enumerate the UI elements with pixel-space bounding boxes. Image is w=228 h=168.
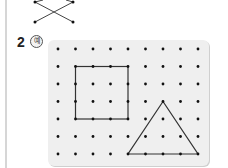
grid-dot — [109, 48, 112, 51]
grid-dot — [109, 65, 112, 68]
grid-dot — [109, 135, 112, 138]
grid-dot — [109, 153, 112, 156]
grid-dot — [179, 65, 182, 68]
grid-dot — [74, 153, 77, 156]
grid-dot — [144, 83, 147, 86]
grid-dot — [197, 83, 200, 86]
grid-dot — [197, 135, 200, 138]
grid-dot — [197, 48, 200, 51]
grid-dot — [92, 65, 95, 68]
grid-dot — [127, 135, 130, 138]
grid-dot — [197, 118, 200, 121]
grid-dot — [197, 153, 200, 156]
grid-dot — [162, 153, 165, 156]
grid-dot — [179, 48, 182, 51]
grid-dot — [92, 100, 95, 103]
grid-dot — [179, 118, 182, 121]
grid-dot — [109, 100, 112, 103]
grid-dot — [57, 65, 60, 68]
grid-dot — [162, 100, 165, 103]
grid-dot — [127, 48, 130, 51]
grid-dot — [92, 48, 95, 51]
grid-dot — [197, 65, 200, 68]
grid-dot — [92, 135, 95, 138]
grid-dot — [57, 153, 60, 156]
grid-dot — [57, 83, 60, 86]
grid-dot — [109, 83, 112, 86]
grid-dot — [144, 153, 147, 156]
grid-dot — [92, 118, 95, 121]
grid-dot — [74, 118, 77, 121]
grid-dot — [74, 100, 77, 103]
grid-dot — [162, 118, 165, 121]
grid-dot — [144, 135, 147, 138]
grid-dot — [179, 135, 182, 138]
grid-dot — [144, 48, 147, 51]
grid-dot — [179, 100, 182, 103]
grid-dot — [57, 100, 60, 103]
grid-dot — [92, 83, 95, 86]
grid-dot — [127, 100, 130, 103]
geoboard-figure — [0, 0, 228, 168]
grid-dot — [74, 83, 77, 86]
grid-dot — [127, 65, 130, 68]
square-shape — [76, 67, 129, 120]
grid-dot — [162, 65, 165, 68]
grid-dot — [57, 118, 60, 121]
triangle-shape — [128, 102, 198, 155]
grid-dot — [57, 48, 60, 51]
grid-dot — [74, 65, 77, 68]
grid-dot — [144, 65, 147, 68]
grid-dot — [162, 83, 165, 86]
grid-dot — [179, 153, 182, 156]
grid-dot — [162, 48, 165, 51]
grid-dot — [197, 100, 200, 103]
grid-dot — [74, 135, 77, 138]
grid-dot — [144, 100, 147, 103]
grid-dot — [162, 135, 165, 138]
grid-dot — [57, 135, 60, 138]
grid-dot — [74, 48, 77, 51]
grid-dot — [179, 83, 182, 86]
grid-dot — [92, 153, 95, 156]
grid-dot — [127, 118, 130, 121]
grid-dot — [127, 153, 130, 156]
grid-dot — [127, 83, 130, 86]
grid-dot — [109, 118, 112, 121]
grid-dot — [144, 118, 147, 121]
